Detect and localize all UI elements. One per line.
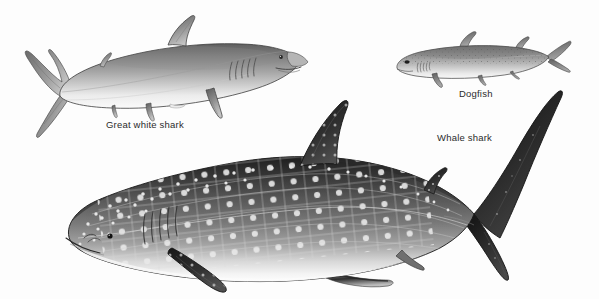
dogfish-second-dorsal-fin xyxy=(516,37,529,48)
label-great-white-shark: Great white shark xyxy=(106,120,184,130)
label-whale-shark: Whale shark xyxy=(437,133,492,143)
whale-shark-eye xyxy=(107,233,112,238)
label-dogfish: Dogfish xyxy=(459,89,493,99)
great-white-dorsal-fin xyxy=(168,16,195,46)
dogfish-first-dorsal-fin xyxy=(460,32,476,46)
great-white-eye xyxy=(279,55,283,59)
illustration-canvas xyxy=(0,0,599,299)
whale-shark-body xyxy=(60,142,480,283)
whale-shark-dorsal-fin xyxy=(300,101,348,166)
dogfish-body xyxy=(395,42,555,78)
dogfish-eye xyxy=(404,60,409,64)
shark-comparison-figure: Great white shark Dogfish Whale shark xyxy=(0,0,599,299)
whale-shark-caudal-fin xyxy=(464,91,562,280)
great-white-body xyxy=(60,44,302,109)
dogfish-caudal-fin xyxy=(546,41,571,72)
dogfish-illustration xyxy=(395,32,571,88)
